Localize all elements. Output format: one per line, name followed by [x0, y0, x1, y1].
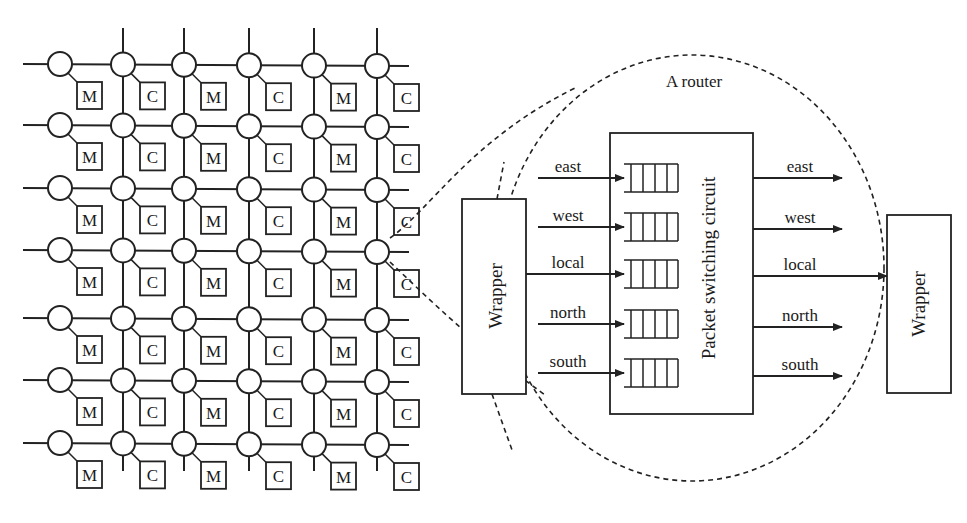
mesh-router-node [48, 306, 72, 330]
input-label: south [550, 352, 587, 371]
tile-connector [322, 136, 331, 145]
input-label: east [555, 157, 582, 176]
tile-connector [131, 389, 140, 398]
tile-connector [322, 454, 331, 463]
tile-label: M [336, 343, 351, 362]
tile-label: C [147, 403, 158, 422]
tile-connector [257, 328, 266, 337]
mesh-router-node [302, 433, 326, 457]
tile-connector [192, 390, 201, 399]
tile-connector [322, 261, 331, 270]
tile-label: C [147, 341, 158, 360]
mesh-router-node [172, 53, 196, 77]
tile-connector [68, 73, 77, 82]
tile-connector [131, 452, 140, 461]
mesh-router-node [48, 368, 72, 392]
right-wrapper: Wrapper [887, 215, 951, 393]
mesh-router-node [237, 114, 261, 138]
mesh-router-node [237, 307, 261, 331]
tile-connector [192, 453, 201, 462]
mesh-router-node [172, 432, 196, 456]
mesh-router-node [365, 115, 389, 139]
mesh-router-node [172, 114, 196, 138]
mesh-router-node [302, 178, 326, 202]
tile-label: M [336, 468, 351, 487]
mesh-router-node [237, 369, 261, 393]
mesh-router-node [111, 306, 135, 330]
mesh-horizontal-link [23, 125, 409, 127]
tile-connector [131, 73, 140, 82]
tile-label: M [206, 88, 221, 107]
output-label: west [784, 208, 815, 227]
tile-label: M [82, 148, 97, 167]
tile-label: M [82, 466, 97, 485]
mesh-router-node [365, 178, 389, 202]
mesh-router-node [365, 370, 389, 394]
tile-label: M [206, 467, 221, 486]
mesh-router-node [237, 239, 261, 263]
tile-label: C [273, 404, 284, 423]
output-port-south: south [753, 355, 842, 376]
tile-label: C [147, 211, 158, 230]
mesh-horizontal-link [23, 250, 409, 252]
mesh-network: MCMCMCMCMCMCMCMCMCMCMCMCMCMCMCMCMCMCMCMC… [23, 28, 419, 490]
tile-connector [257, 390, 266, 399]
tile-label: C [401, 213, 412, 232]
tile-label: C [147, 466, 158, 485]
tile-label: C [273, 212, 284, 231]
mesh-router-node [237, 53, 261, 77]
mesh-router-node [48, 113, 72, 137]
left-wrapper-label: Wrapper [485, 262, 506, 328]
noc-diagram: MCMCMCMCMCMCMCMCMCMCMCMCMCMCMCMCMCMCMCMC… [0, 0, 967, 523]
tile-connector [257, 260, 266, 269]
mesh-router-node [111, 368, 135, 392]
tile-connector [68, 197, 77, 206]
mesh-horizontal-link [23, 188, 409, 190]
mesh-router-node [48, 431, 72, 455]
tile-label: C [401, 89, 412, 108]
mesh-router-node [172, 239, 196, 263]
tile-label: C [147, 87, 158, 106]
input-label: local [551, 253, 584, 272]
tile-label: C [401, 468, 412, 487]
tile-connector [68, 452, 77, 461]
tile-connector [385, 391, 394, 400]
tile-label: M [82, 403, 97, 422]
tile-connector [192, 135, 201, 144]
tile-connector [385, 329, 394, 338]
tile-label: M [206, 342, 221, 361]
tile-connector [257, 74, 266, 83]
mesh-router-node [302, 54, 326, 78]
tile-label: M [82, 87, 97, 106]
tile-label: C [273, 467, 284, 486]
mesh-horizontal-link [23, 443, 409, 445]
tile-label: M [206, 212, 221, 231]
mesh-horizontal-link [23, 64, 409, 66]
mesh-router-node [365, 240, 389, 264]
tile-label: M [206, 274, 221, 293]
tile-connector [385, 75, 394, 84]
tile-label: M [206, 149, 221, 168]
mesh-router-node [111, 176, 135, 200]
tile-label: C [147, 148, 158, 167]
router-title: A router [666, 72, 723, 91]
output-port-local: local [753, 255, 887, 276]
mesh-router-node [111, 52, 135, 76]
tile-connector [192, 260, 201, 269]
mesh-router-node [48, 238, 72, 262]
mesh-router-node [111, 113, 135, 137]
tile-label: C [401, 405, 412, 424]
output-label: south [782, 355, 819, 374]
tile-label: C [273, 88, 284, 107]
mesh-router-node [172, 177, 196, 201]
tile-connector [257, 453, 266, 462]
tile-label: C [273, 274, 284, 293]
output-port-east: east [753, 157, 842, 178]
left-wrapper: Wrapper [462, 162, 558, 450]
output-port-west: west [753, 208, 842, 229]
tile-connector [68, 134, 77, 143]
mesh-router-node [111, 238, 135, 262]
tile-label: M [336, 275, 351, 294]
mesh-router-node [365, 54, 389, 78]
tile-connector [68, 327, 77, 336]
